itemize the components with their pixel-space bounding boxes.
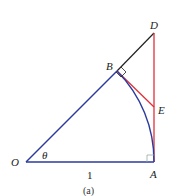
right-angle-marker-A	[147, 155, 154, 162]
diagram-canvas: D B E O A θ 1 (a)	[0, 0, 176, 196]
label-B: B	[106, 60, 113, 72]
segment-BD	[117, 33, 154, 71]
label-D: D	[149, 19, 158, 31]
angle-theta-label: θ	[42, 149, 48, 161]
label-O: O	[11, 156, 19, 168]
segment-OB	[26, 71, 117, 162]
label-E: E	[157, 104, 165, 116]
label-A: A	[149, 168, 157, 180]
figure-caption: (a)	[83, 185, 94, 196]
radius-label: 1	[87, 169, 93, 181]
arc-BA	[117, 71, 154, 162]
